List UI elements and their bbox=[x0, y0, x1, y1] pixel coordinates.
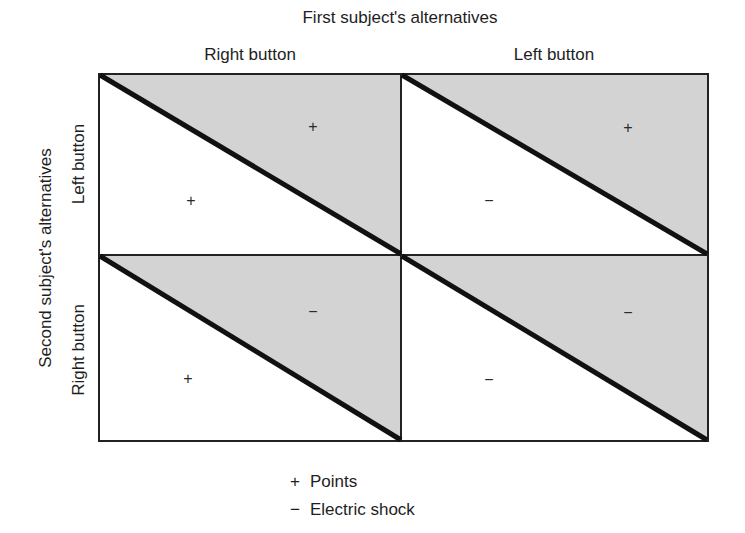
legend-item-points: +Points bbox=[286, 472, 357, 492]
payoff-matrix-grid bbox=[0, 0, 745, 533]
cell-mark-lower: + bbox=[183, 193, 199, 209]
plus-icon: + bbox=[286, 472, 304, 492]
cell-mark-upper: + bbox=[620, 120, 636, 136]
legend-label: Electric shock bbox=[310, 500, 415, 519]
cell-mark-lower: − bbox=[481, 372, 497, 388]
cell-mark-lower: + bbox=[180, 371, 196, 387]
cell-mark-upper: + bbox=[305, 119, 321, 135]
cell-mark-upper: − bbox=[620, 305, 636, 321]
cell-mark-lower: − bbox=[481, 193, 497, 209]
legend-item-electric-shock: −Electric shock bbox=[286, 500, 415, 520]
legend-label: Points bbox=[310, 472, 357, 491]
cell-mark-upper: − bbox=[305, 304, 321, 320]
minus-icon: − bbox=[286, 500, 304, 520]
